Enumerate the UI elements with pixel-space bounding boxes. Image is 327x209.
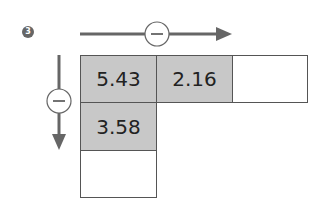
cell-r1c3 <box>232 55 308 103</box>
cell-r1c2: 2.16 <box>156 55 233 103</box>
cell-r3c1 <box>80 150 157 198</box>
cell-r1c1: 5.43 <box>80 55 157 103</box>
arrows-layer <box>0 0 327 209</box>
cell-r2c1: 3.58 <box>80 102 157 151</box>
